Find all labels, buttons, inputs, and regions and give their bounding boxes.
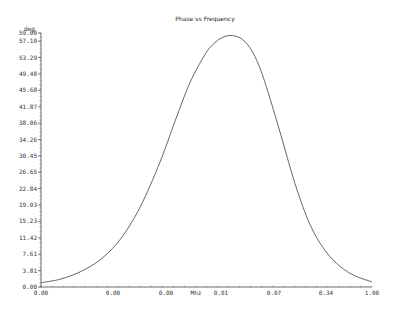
x-tick-label: 0.00 — [34, 289, 49, 296]
x-tick-label: 0.00 — [106, 289, 121, 296]
y-tick-label: 7.61 — [23, 250, 38, 257]
chart-title: Phase vs Frequency — [175, 15, 235, 23]
y-tick-label: 26.65 — [19, 168, 37, 175]
y-tick-label: 34.26 — [19, 136, 37, 143]
x-axis: 0.000.000.000.010.070.341.00Mhz — [34, 286, 380, 297]
x-axis-unit-label: Mhz — [191, 289, 202, 296]
x-tick-label: 0.01 — [214, 289, 229, 296]
y-tick-label: 22.84 — [19, 185, 37, 192]
y-tick-label: 53.29 — [19, 54, 37, 61]
y-tick-label: 15.23 — [19, 217, 37, 224]
y-tick-label: 57.10 — [19, 37, 37, 44]
y-tick-label: 41.87 — [19, 103, 37, 110]
y-tick-label: 30.45 — [19, 152, 37, 159]
y-tick-label: 38.06 — [19, 119, 37, 126]
y-tick-label: 49.48 — [19, 70, 37, 77]
y-tick-label: 11.42 — [19, 234, 37, 241]
phase-vs-frequency-chart: Phase vs Frequency 0.003.817.6111.4215.2… — [0, 0, 396, 314]
phase-curve — [41, 35, 372, 282]
y-tick-label: 19.03 — [19, 201, 37, 208]
y-axis: 0.003.817.6111.4215.2319.0322.8426.6530.… — [19, 29, 41, 290]
x-tick-label: 0.00 — [159, 289, 174, 296]
y-tick-label: 45.68 — [19, 86, 37, 93]
y-axis-unit-label: deg — [24, 25, 35, 33]
x-tick-label: 0.34 — [319, 289, 334, 296]
x-tick-label: 0.07 — [267, 289, 282, 296]
x-tick-label: 1.00 — [365, 289, 380, 296]
y-tick-label: 3.81 — [23, 267, 38, 274]
